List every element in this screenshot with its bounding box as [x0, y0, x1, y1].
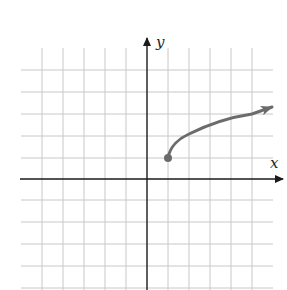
- y-axis-label: y: [155, 33, 165, 51]
- sqrt-curve: [168, 107, 272, 158]
- x-axis-label: x: [270, 154, 279, 172]
- coordinate-plane: y x: [0, 0, 287, 290]
- start-point: [164, 154, 172, 162]
